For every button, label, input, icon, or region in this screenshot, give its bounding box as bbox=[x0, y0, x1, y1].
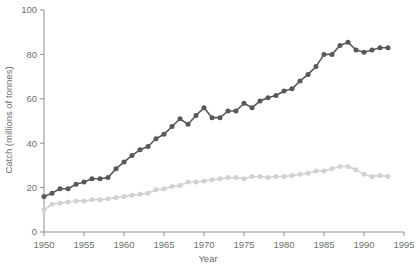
data-point bbox=[250, 105, 255, 110]
data-point bbox=[226, 175, 231, 180]
data-point bbox=[50, 191, 55, 196]
data-point bbox=[170, 124, 175, 129]
y-tick-label: 0 bbox=[32, 226, 37, 237]
y-tick-label: 100 bbox=[21, 4, 37, 15]
data-point bbox=[186, 122, 191, 127]
data-point bbox=[314, 64, 319, 69]
data-point bbox=[114, 166, 119, 171]
data-point bbox=[82, 180, 87, 185]
data-point bbox=[218, 115, 223, 120]
data-point bbox=[282, 174, 287, 179]
data-point bbox=[98, 176, 103, 181]
x-tick-label: 1960 bbox=[113, 239, 134, 250]
y-tick-label: 40 bbox=[26, 138, 37, 149]
data-point bbox=[290, 173, 295, 178]
data-point bbox=[314, 168, 319, 173]
data-point bbox=[250, 174, 255, 179]
data-point bbox=[66, 186, 71, 191]
data-point bbox=[234, 109, 239, 114]
data-point bbox=[98, 197, 103, 202]
data-point bbox=[130, 193, 135, 198]
data-point bbox=[146, 144, 151, 149]
data-point bbox=[74, 182, 79, 187]
x-tick-label: 1965 bbox=[153, 239, 174, 250]
data-point bbox=[122, 160, 127, 165]
x-tick-label: 1995 bbox=[393, 239, 414, 250]
data-point bbox=[266, 175, 271, 180]
x-tick-label: 1970 bbox=[193, 239, 214, 250]
series-secondary-catch bbox=[42, 164, 391, 212]
data-point bbox=[274, 174, 279, 179]
data-point bbox=[66, 200, 71, 205]
x-tick-label: 1985 bbox=[313, 239, 334, 250]
data-point bbox=[82, 198, 87, 203]
y-tick-labels: 020406080100 bbox=[21, 4, 37, 237]
data-point bbox=[298, 79, 303, 84]
data-point bbox=[282, 89, 287, 94]
data-point bbox=[378, 45, 383, 50]
data-point bbox=[146, 191, 151, 196]
data-point bbox=[178, 116, 183, 121]
x-tick-label: 1990 bbox=[353, 239, 374, 250]
y-tick-label: 20 bbox=[26, 182, 37, 193]
y-tick-label: 60 bbox=[26, 93, 37, 104]
series-line bbox=[44, 167, 388, 210]
data-point bbox=[194, 113, 199, 118]
y-tick-label: 80 bbox=[26, 49, 37, 60]
data-point bbox=[370, 47, 375, 52]
x-tick-label: 1975 bbox=[233, 239, 254, 250]
data-point bbox=[330, 166, 335, 171]
data-point bbox=[58, 201, 63, 206]
data-point bbox=[306, 72, 311, 77]
data-point bbox=[138, 147, 143, 152]
data-point bbox=[346, 40, 351, 45]
data-point bbox=[114, 195, 119, 200]
data-point bbox=[74, 198, 79, 203]
data-point bbox=[162, 186, 167, 191]
data-point bbox=[210, 177, 215, 182]
data-point bbox=[106, 196, 111, 201]
x-tick-label: 1980 bbox=[273, 239, 294, 250]
fisheries-catch-chart: 020406080100 195019551960196519701975198… bbox=[0, 0, 417, 268]
data-point bbox=[170, 184, 175, 189]
data-point bbox=[362, 50, 367, 55]
data-point bbox=[122, 194, 127, 199]
data-point bbox=[242, 101, 247, 106]
data-point bbox=[50, 202, 55, 207]
data-point bbox=[298, 172, 303, 177]
data-point bbox=[234, 175, 239, 180]
data-series-group bbox=[42, 40, 391, 213]
data-point bbox=[322, 52, 327, 57]
data-point bbox=[362, 172, 367, 177]
series-line bbox=[44, 42, 388, 196]
data-point bbox=[274, 93, 279, 98]
x-tick-label: 1950 bbox=[33, 239, 54, 250]
data-point bbox=[210, 115, 215, 120]
data-point bbox=[242, 176, 247, 181]
data-point bbox=[266, 95, 271, 100]
data-point bbox=[322, 168, 327, 173]
data-point bbox=[218, 176, 223, 181]
data-point bbox=[162, 132, 167, 137]
data-point bbox=[42, 194, 47, 199]
data-point bbox=[346, 164, 351, 169]
data-point bbox=[338, 164, 343, 169]
data-point bbox=[90, 197, 95, 202]
data-point bbox=[130, 153, 135, 158]
data-point bbox=[186, 180, 191, 185]
data-point bbox=[354, 47, 359, 52]
data-point bbox=[202, 178, 207, 183]
data-point bbox=[386, 45, 391, 50]
data-point bbox=[258, 174, 263, 179]
data-point bbox=[226, 109, 231, 114]
data-point bbox=[370, 174, 375, 179]
data-point bbox=[42, 207, 47, 212]
data-point bbox=[154, 187, 159, 192]
data-point bbox=[378, 173, 383, 178]
data-point bbox=[386, 174, 391, 179]
data-point bbox=[154, 136, 159, 141]
data-point bbox=[354, 167, 359, 172]
data-point bbox=[338, 43, 343, 48]
data-point bbox=[202, 105, 207, 110]
x-tick-label: 1955 bbox=[73, 239, 94, 250]
